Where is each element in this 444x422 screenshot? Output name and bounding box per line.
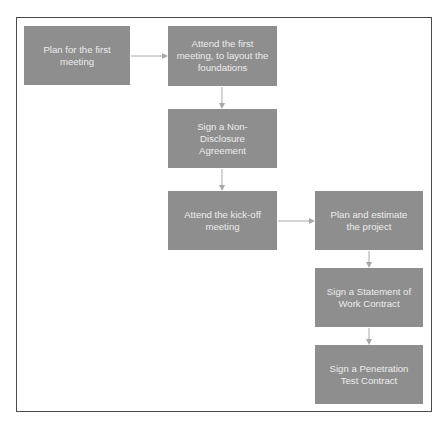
node-label: Plan and estimate the project [323,209,415,233]
node-label: Plan for the first meeting [32,44,122,68]
node-label: Attend the first meeting, to layout the … [176,38,269,74]
node-sign-nda: Sign a Non-Disclosure Agreement [168,109,277,168]
node-attend-first-meeting: Attend the first meeting, to layout the … [168,26,277,86]
node-sign-sow-contract: Sign a Statement of Work Contract [315,268,423,327]
node-label: Attend the kick-off meeting [176,209,269,233]
node-sign-pentest-contract: Sign a Penetration Test Contract [315,345,423,404]
node-plan-estimate-project: Plan and estimate the project [315,191,423,250]
node-label: Sign a Statement of Work Contract [323,286,415,310]
node-label: Sign a Penetration Test Contract [323,363,415,387]
node-plan-first-meeting: Plan for the first meeting [24,26,130,85]
node-label: Sign a Non-Disclosure Agreement [176,121,269,157]
node-attend-kickoff: Attend the kick-off meeting [168,191,277,250]
